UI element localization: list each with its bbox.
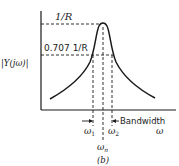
- omegan-label: ωn: [97, 142, 108, 153]
- half-power-label: 0.707 1/R: [44, 43, 88, 53]
- omega1-label: ω1: [84, 126, 95, 137]
- omega2-label: ω2: [108, 126, 119, 137]
- x-axis-label: ω: [156, 126, 164, 136]
- bandwidth-label: Bandwidth: [120, 116, 165, 126]
- y-axis-label: |Y(jω)|: [1, 58, 29, 69]
- arrowhead-right-icon: [89, 119, 93, 123]
- resonance-curve-diagram: 1/R 0.707 1/R |Y(jω)| Bandwidth ω ω1 ω2 …: [0, 0, 179, 166]
- arrowhead-left-icon: [112, 119, 116, 123]
- figure-caption: (b): [97, 155, 109, 165]
- magnitude-curve: [50, 23, 155, 99]
- peak-label: 1/R: [55, 11, 73, 22]
